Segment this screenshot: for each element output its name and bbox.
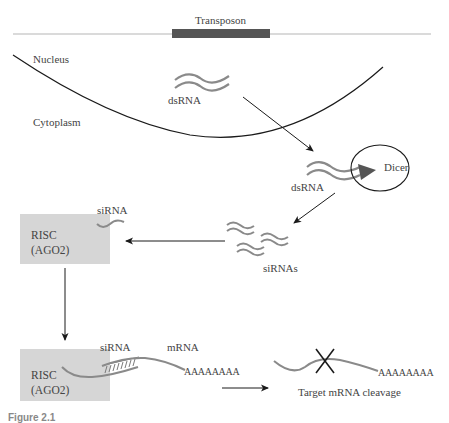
target-cleavage-label: Target mRNA cleavage: [298, 386, 401, 399]
nucleus-label: Nucleus: [33, 53, 69, 66]
sirna-bottom-label: siRNA: [100, 341, 131, 354]
dsrna-dicer-label: dsRNA: [291, 181, 324, 194]
transposon-bar: [172, 29, 270, 38]
risc-top-line2: (AGO2): [31, 243, 69, 258]
mrna-label: mRNA: [167, 341, 199, 354]
cytoplasm-label: Cytoplasm: [33, 116, 81, 129]
dicer-label: Dicer: [384, 161, 408, 174]
arrow-export: [243, 97, 313, 151]
polya-tail-cleaved: AAAAAAAA: [378, 366, 433, 379]
dsrna-nucleus-icon: [175, 74, 229, 90]
arrow-dicing: [294, 193, 335, 223]
transposon-label: Transposon: [195, 14, 246, 27]
risc-bottom-line1: RISC: [31, 368, 69, 383]
dicer-cleavage-wedge-icon: [358, 164, 376, 180]
figure-caption: Figure 2.1: [8, 412, 55, 423]
risc-top-label: RISC (AGO2): [31, 228, 69, 258]
sirnas-icon: [227, 223, 288, 256]
sirna-risc-label: siRNA: [97, 204, 128, 217]
dsrna-dicer-icon: [307, 162, 360, 179]
mrna-strand: [102, 358, 185, 370]
dsrna-nucleus-label: dsRNA: [168, 94, 201, 107]
risc-bottom-label: RISC (AGO2): [31, 368, 69, 398]
risc-bottom-line2: (AGO2): [31, 383, 69, 398]
polya-tail-bound: AAAAAAAA: [184, 365, 239, 378]
sirnas-label: siRNAs: [263, 262, 298, 275]
risc-top-line1: RISC: [31, 228, 69, 243]
